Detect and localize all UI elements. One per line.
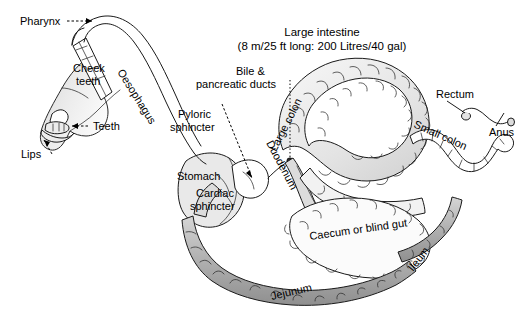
label-pharynx: Pharynx — [20, 15, 61, 27]
colon-haustra-18 — [338, 180, 350, 184]
label-pyloric-sphincter-line1: Pyloric — [178, 108, 212, 120]
label-cardiac-sphincter-line2: sphincter — [190, 200, 235, 212]
label-cheek-teeth-line2: teeth — [76, 75, 100, 87]
colon-haustra-17 — [358, 181, 370, 187]
label-bile-ducts-line1: Bile & — [236, 65, 265, 77]
label-cardiac-sphincter-line1: Cardiac — [196, 187, 234, 199]
label-pyloric-sphincter-line2: sphincter — [170, 121, 215, 133]
rectum-marker — [462, 112, 471, 120]
label-rectum: Rectum — [436, 88, 474, 100]
pharynx-arrowhead — [86, 18, 92, 24]
incisor-lower — [45, 122, 69, 134]
label-anus: Anus — [489, 126, 515, 138]
rectum-anus-group — [462, 108, 515, 126]
label-large-intestine-title: Large intestine — [284, 26, 359, 38]
label-bile-ducts-line2: pancreatic ducts — [196, 78, 277, 90]
label-cheek-teeth-line1: Cheek — [73, 62, 105, 74]
label-large-intestine-subtitle: (8 m/25 ft long: 200 Litres/40 gal) — [238, 40, 407, 52]
colon-haustra-19 — [319, 171, 331, 175]
anus-opening — [508, 118, 515, 126]
label-stomach: Stomach — [177, 170, 220, 182]
digestive-tract-diagram: Pharynx Cheek teeth Teeth Lips Oesophagu… — [0, 0, 523, 312]
diagram-canvas: Pharynx Cheek teeth Teeth Lips Oesophagu… — [0, 0, 523, 312]
label-lips: Lips — [21, 148, 42, 160]
label-teeth: Teeth — [93, 120, 120, 132]
caecum-haustra-17 — [285, 225, 289, 234]
label-oesophagus: Oesophagus — [115, 67, 158, 127]
rectum-leader — [447, 101, 465, 113]
